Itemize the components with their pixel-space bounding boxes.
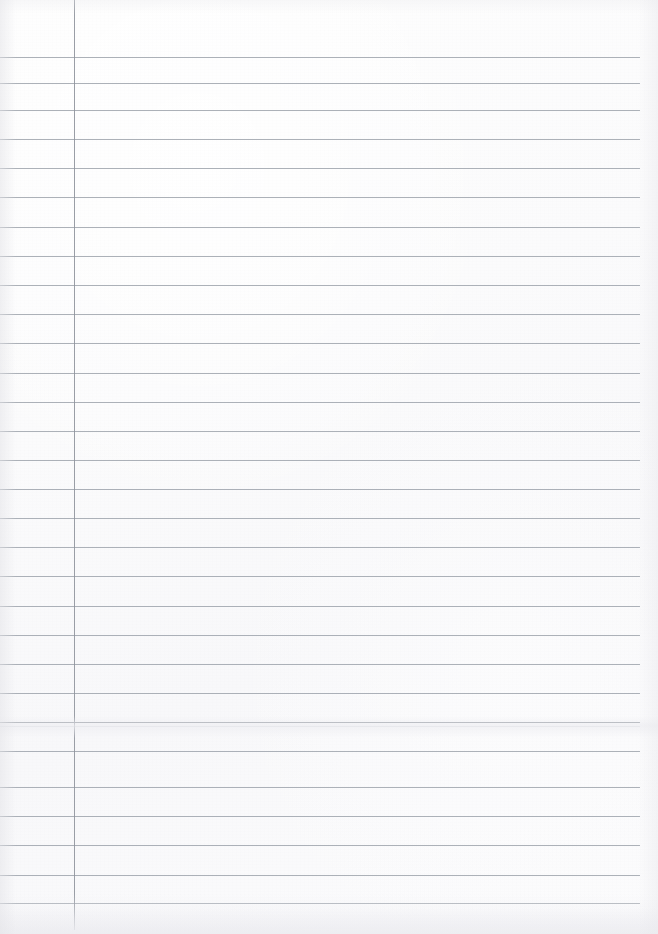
notebook-page — [0, 0, 658, 934]
writing-area[interactable] — [75, 0, 640, 934]
